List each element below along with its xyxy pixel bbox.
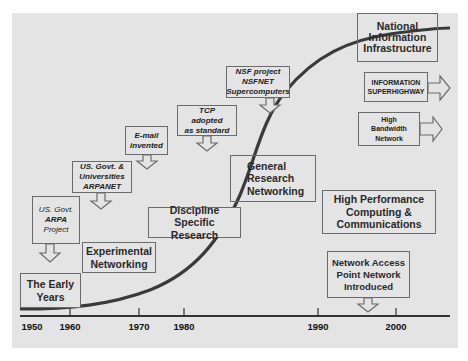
- milestone-tcp-adopted: TCPadoptedas standard: [177, 105, 237, 136]
- outcome-text: High: [371, 115, 407, 125]
- milestone-network-access-point: Network AccessPoint NetworkIntroduced: [327, 251, 410, 298]
- phase-discipline-specific-research: Discipline SpecificResearch: [148, 207, 241, 238]
- phase-label: Research: [247, 172, 304, 185]
- year-label-1990: 1990: [307, 321, 328, 332]
- milestone-text: Project: [39, 225, 74, 235]
- milestone-text: invented: [130, 141, 163, 151]
- milestone-text: ARPA: [39, 215, 74, 225]
- outcome-text: SUPERHIGHWAY: [368, 87, 425, 97]
- outcome-information-superhighway: INFORMATIONSUPERHIGHWAY: [364, 72, 428, 102]
- phase-national-information-infrastructure: NationalInformationInfrastructure: [357, 13, 438, 62]
- down-arrow-icon: [137, 155, 157, 169]
- down-arrow-icon: [197, 136, 217, 151]
- phase-general-research-networking: GeneralResearchNetworking: [230, 155, 316, 202]
- year-label-1960: 1960: [59, 321, 80, 332]
- milestone-text: ARPANET: [79, 182, 124, 192]
- outcome-text: Network: [371, 134, 407, 144]
- milestone-nsfnet: NSF projectNSFNETSupercomputers: [226, 66, 290, 98]
- down-arrow-icon: [40, 244, 60, 262]
- outcome-text: INFORMATION: [368, 78, 425, 88]
- down-arrow-icon: [358, 298, 378, 312]
- phase-label: Research: [149, 229, 240, 242]
- milestone-text: US. Govt. &: [79, 162, 124, 172]
- milestone-text: Point Network: [332, 269, 405, 281]
- year-label-2000: 2000: [385, 321, 406, 332]
- milestone-text: as standard: [185, 126, 230, 136]
- milestone-text: US. Govt.: [39, 205, 74, 215]
- phase-early-years: The EarlyYears: [20, 273, 81, 308]
- phase-label: Experimental: [86, 245, 152, 258]
- milestone-text: TCP: [185, 106, 230, 116]
- phase-label: The Early: [27, 278, 74, 291]
- milestone-arpanet: US. Govt. &UniversitiesARPANET: [72, 161, 132, 193]
- phase-label: Computing &: [334, 206, 424, 219]
- phase-experimental-networking: ExperimentalNetworking: [82, 242, 156, 273]
- axis-ticks: [70, 308, 396, 316]
- phase-label: Discipline Specific: [149, 204, 240, 229]
- milestone-email-invented: E-mailinvented: [125, 126, 168, 155]
- right-arrow-icon: [428, 76, 450, 100]
- milestone-text: Network Access: [332, 257, 405, 269]
- milestone-text: Supercomputers: [226, 87, 290, 97]
- right-arrow-icon: [420, 117, 442, 141]
- milestone-text: Universities: [79, 172, 124, 182]
- phase-label: Networking: [247, 185, 304, 198]
- year-label-1980: 1980: [173, 321, 194, 332]
- phase-label: Years: [27, 291, 74, 304]
- phase-label: Infrastructure: [363, 43, 431, 54]
- phase-label: General: [247, 160, 304, 173]
- outcome-text: Bandwidth: [371, 124, 407, 134]
- milestone-text: NSFNET: [226, 77, 290, 87]
- down-arrow-icon: [91, 193, 111, 209]
- phase-label: High Performance: [334, 193, 424, 206]
- year-label-1970: 1970: [128, 321, 149, 332]
- milestone-arpa-project: US. Govt.ARPAProject: [32, 196, 80, 244]
- phase-label: Networking: [86, 258, 152, 271]
- milestone-text: E-mail: [130, 131, 163, 141]
- year-label-1950: 1950: [21, 321, 42, 332]
- milestone-text: NSF project: [226, 67, 290, 77]
- milestone-text: Introduced: [332, 281, 405, 293]
- milestone-text: adopted: [185, 116, 230, 126]
- phase-label: Communications: [334, 218, 424, 231]
- outcome-high-bandwidth-network: HighBandwidthNetwork: [358, 112, 420, 146]
- phase-high-performance-computing: High PerformanceComputing &Communication…: [322, 190, 436, 234]
